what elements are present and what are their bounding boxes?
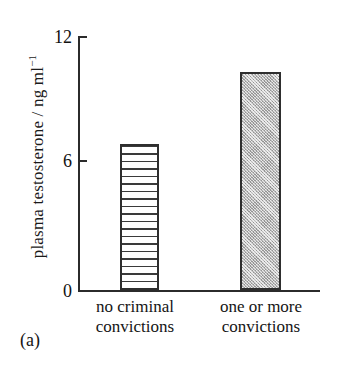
y-axis-tick-12 [78,36,87,38]
y-axis-tick-6 [78,160,87,162]
x-axis-category-label-0-line1: no criminal [70,297,200,317]
x-axis-line [78,290,320,292]
y-axis-line [78,36,80,292]
y-axis-tick-label-6: 6 [63,152,72,170]
x-axis-category-label-1-line1: one or more [190,297,332,317]
panel-tag: (a) [20,331,40,349]
y-axis-tick-label-12: 12 [54,28,72,46]
x-axis-category-label-0: no criminal convictions [70,297,200,337]
x-axis-category-label-1-line2: convictions [190,317,332,337]
x-axis-category-label-0-line2: convictions [70,317,200,337]
y-axis-title-exponent: −1 [26,55,38,67]
bar-no-criminal-convictions [120,144,159,290]
y-axis-title-text: plasma testosterone / ng ml [28,67,47,258]
x-axis-category-label-1: one or more convictions [190,297,332,337]
bar-chart-figure: plasma testosterone / ng ml−1 12 6 0 no … [0,0,341,371]
bar-one-or-more-convictions [240,72,281,290]
y-axis-title: plasma testosterone / ng ml−1 [29,17,46,297]
